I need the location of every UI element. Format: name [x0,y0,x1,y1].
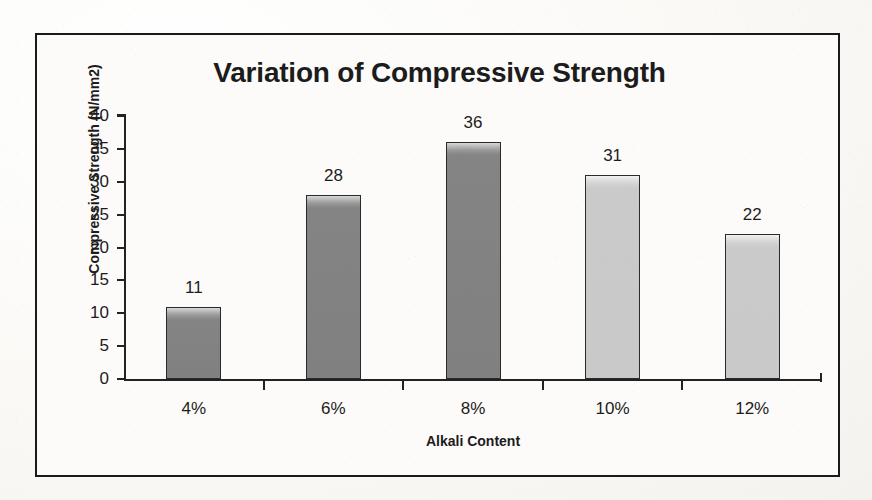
y-axis-tick [117,115,125,117]
bar [725,234,780,379]
y-axis-tick [117,312,125,314]
y-axis-tick-label: 5 [65,337,109,354]
x-axis-line [124,379,822,381]
x-axis-end-cap [820,373,822,382]
bar [585,175,640,379]
x-axis-category-label: 12% [692,400,812,417]
bar [166,307,221,379]
bar [306,195,361,379]
x-axis-tick [263,381,265,390]
y-axis-tick [117,247,125,249]
x-axis-tick [542,381,544,390]
bar [446,142,501,379]
y-axis-title: Compressive Strength (N/mm2) [86,24,102,314]
y-axis-tick [117,279,125,281]
y-axis-tick [117,345,125,347]
y-axis-tick [117,148,125,150]
y-axis-tick-label: 0 [65,370,109,387]
bar-value-label: 28 [273,167,393,184]
x-axis-category-label: 10% [553,400,673,417]
bar-value-label: 31 [553,147,673,164]
bar-value-label: 11 [134,279,254,296]
bar-value-label: 22 [692,206,812,223]
x-axis-category-label: 6% [273,400,393,417]
x-axis-category-label: 8% [413,400,533,417]
plot-area: 0510152025303540 4%6%8%10%12% 1128363122… [37,35,842,479]
y-axis-tick [117,181,125,183]
y-axis-tick [117,214,125,216]
chart-figure-frame: Variation of Compressive Strength 051015… [35,33,840,477]
bar-value-label: 36 [413,114,533,131]
x-axis-tick [402,381,404,390]
y-axis-tick [117,378,125,380]
x-axis-title: Alkali Content [124,433,822,449]
x-axis-category-label: 4% [134,400,254,417]
x-axis-tick [681,381,683,390]
